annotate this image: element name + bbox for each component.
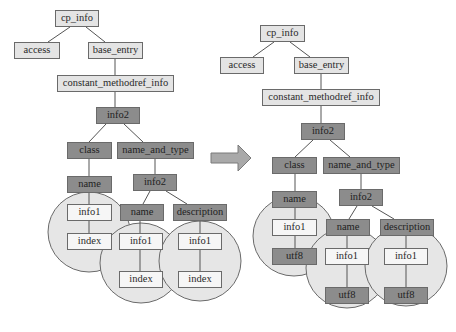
left-name-and-type-node: name_and_type — [117, 142, 194, 159]
right-constant-methodref-info-node: constant_methodref_info — [262, 89, 380, 106]
left-class-node: class — [67, 142, 112, 159]
right-class-node: class — [272, 157, 317, 174]
left-nat-name-node: name — [120, 204, 164, 221]
right-nat-description-node: description — [380, 219, 434, 236]
left-access-node: access — [14, 42, 60, 59]
left-cp-info-node: cp_info — [55, 10, 99, 27]
right-access-node: access — [220, 57, 264, 74]
right-name-info1-node: info1 — [325, 248, 369, 265]
left-desc-info1-node: info1 — [178, 233, 222, 250]
right-name-utf8-node: utf8 — [325, 287, 369, 304]
left-name-info1-node: info1 — [119, 233, 163, 250]
right-name-and-type-node: name_and_type — [323, 157, 400, 174]
right-nat-info2-node: info2 — [339, 189, 383, 206]
left-base-entry-node: base_entry — [88, 42, 143, 59]
left-class-index-node: index — [67, 233, 112, 250]
right-class-info1-node: info1 — [272, 219, 317, 236]
right-nat-name-node: name — [326, 219, 370, 236]
left-class-name-node: name — [67, 176, 112, 193]
right-base-entry-node: base_entry — [294, 57, 349, 74]
left-name-index-node: index — [119, 271, 163, 288]
left-nat-description-node: description — [173, 204, 227, 221]
right-desc-utf8-node: utf8 — [384, 287, 428, 304]
left-desc-index-node: index — [178, 271, 222, 288]
right-desc-info1-node: info1 — [384, 248, 428, 265]
left-nat-info2-node: info2 — [133, 174, 177, 191]
right-info2-node: info2 — [301, 123, 345, 140]
left-class-info1-node: info1 — [67, 204, 112, 221]
right-cp-info-node: cp_info — [260, 25, 305, 42]
left-constant-methodref-info-node: constant_methodref_info — [57, 75, 174, 92]
right-class-name-node: name — [272, 191, 317, 208]
left-info2-node: info2 — [96, 107, 140, 124]
right-class-utf8-node: utf8 — [272, 248, 317, 265]
transform-arrow-icon — [211, 145, 251, 171]
